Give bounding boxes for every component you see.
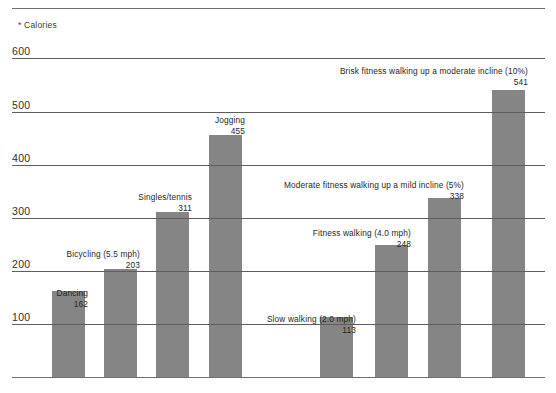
bar-value: 311 bbox=[0, 203, 192, 214]
bar bbox=[209, 135, 242, 377]
bar-label: Fitness walking (4.0 mph) bbox=[0, 228, 411, 239]
y-tick-label-400: 400 bbox=[12, 152, 30, 164]
gridline-600 bbox=[12, 58, 545, 59]
bar-value: 113 bbox=[0, 325, 356, 336]
bar-annotation: Dancing162 bbox=[0, 288, 88, 309]
chart-baseline bbox=[12, 377, 545, 378]
gridline-300 bbox=[12, 218, 545, 219]
gridline-400 bbox=[12, 165, 545, 166]
bar-value: 455 bbox=[0, 126, 245, 137]
gridline-500 bbox=[12, 112, 545, 113]
bar-label: Brisk fitness walking up a moderate incl… bbox=[0, 66, 528, 77]
bar-label: Moderate fitness walking up a mild incli… bbox=[0, 180, 464, 191]
chart-top-border bbox=[12, 8, 545, 9]
bar-label: Jogging bbox=[0, 115, 245, 126]
bar-value: 203 bbox=[0, 260, 140, 271]
bar-value: 248 bbox=[0, 239, 411, 250]
bar-annotation: Moderate fitness walking up a mild incli… bbox=[0, 180, 464, 201]
bar-annotation: Bicycling (5.5 mph)203 bbox=[0, 249, 140, 270]
bar-value: 162 bbox=[0, 299, 88, 310]
y-tick-label-600: 600 bbox=[12, 45, 30, 57]
y-axis-caption: * Calories bbox=[18, 20, 57, 30]
bar-annotation: Fitness walking (4.0 mph)248 bbox=[0, 228, 411, 249]
calories-bar-chart: * Calories 600500400300200100 Dancing162… bbox=[0, 0, 556, 393]
bar-annotation: Slow walking (2.0 mph)113 bbox=[0, 314, 356, 335]
bar-annotation: Brisk fitness walking up a moderate incl… bbox=[0, 66, 528, 87]
bar bbox=[492, 90, 525, 377]
y-tick-label-500: 500 bbox=[12, 99, 30, 111]
bar-label: Dancing bbox=[0, 288, 88, 299]
bar-value: 541 bbox=[0, 77, 528, 88]
bar bbox=[375, 245, 408, 377]
bar bbox=[428, 198, 461, 377]
bar-label: Slow walking (2.0 mph) bbox=[0, 314, 356, 325]
gridline-200 bbox=[12, 271, 545, 272]
bar-value: 338 bbox=[0, 191, 464, 202]
bar-annotation: Jogging455 bbox=[0, 115, 245, 136]
bar-label: Bicycling (5.5 mph) bbox=[0, 249, 140, 260]
